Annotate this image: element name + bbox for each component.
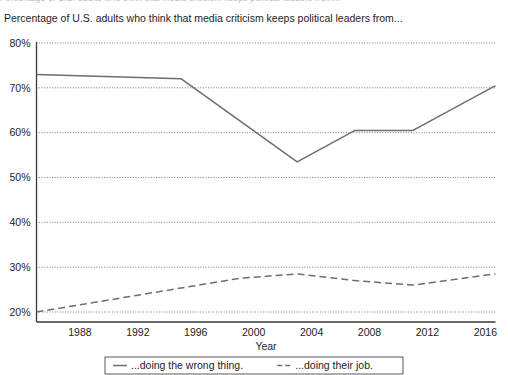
x-tick-label: 1996 [184,326,208,338]
page-title: Percentage of U.S. adults who think that… [4,12,403,24]
y-tick-label: 60% [9,126,30,138]
y-tick-label: 50% [9,171,30,183]
legend-label-0: ...doing the wrong thing. [131,359,243,371]
y-tick-label: 70% [9,82,30,94]
y-tick-label: 30% [9,261,30,273]
x-axis-title: Year [255,340,277,352]
y-tick-label: 40% [9,216,30,228]
x-tick-label: 2012 [416,326,440,338]
x-tick-label: 2000 [242,326,266,338]
y-tick-label: 80% [9,37,30,49]
gridlines-group [37,43,496,312]
series-line-1 [37,274,496,312]
x-axis-tick-labels: 19881992199620002004200820122016 [68,326,497,338]
axis-lines [37,42,496,322]
chart-legend: ...doing the wrong thing....doing their … [105,357,403,374]
y-tick-label: 20% [9,306,30,318]
clipped-header-text: Percentage of U.S. adults who think that… [0,0,508,3]
legend-label-1: ...doing their job. [295,359,373,371]
x-tick-label: 2004 [300,326,324,338]
x-tick-label: 1988 [68,326,92,338]
x-tick-label: 2008 [358,326,382,338]
x-tick-label: 1992 [126,326,150,338]
data-series-group [37,74,496,312]
y-axis-tick-labels: 20%30%40%50%60%70%80% [9,37,30,318]
chart-figure: Percentage of U.S. adults who think that… [0,0,508,375]
line-chart: 20%30%40%50%60%70%80% 198819921996200020… [0,0,508,375]
x-tick-label: 2016 [474,326,498,338]
